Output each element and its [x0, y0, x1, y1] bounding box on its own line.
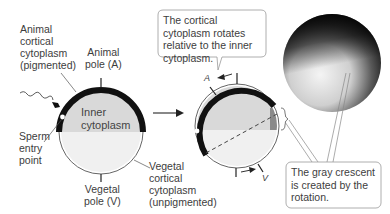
label-line: Animal — [85, 46, 122, 58]
label-line: Sperm — [19, 130, 50, 142]
label-line: pole (A) — [85, 58, 122, 70]
label-line: point — [19, 154, 50, 166]
transition-arrow — [153, 109, 184, 117]
label-vegetal-pole: Vegetal pole (V) — [84, 183, 121, 207]
sperm-head — [52, 102, 60, 108]
label-line: pole (V) — [84, 195, 121, 207]
label-line: (unpigmented) — [149, 196, 217, 208]
gray-crescent-photo — [283, 14, 381, 112]
label-line: Vegetal — [149, 160, 217, 172]
label-line: Vegetal — [84, 183, 121, 195]
label-line: cytoplasm — [20, 47, 76, 59]
callout-rotation-text: The cortical cytoplasm rotates relative … — [163, 14, 263, 64]
label-rotated-V: V — [262, 172, 268, 184]
label-inner-cytoplasm: Inner cytoplasm — [81, 106, 131, 131]
label-line: cortical — [149, 172, 217, 184]
gray-crescent — [270, 108, 285, 130]
callout-gray-crescent-text: The gray crescent is created by the rota… — [291, 166, 381, 204]
label-line: Inner — [81, 106, 131, 119]
label-animal-pole: Animal pole (A) — [85, 46, 122, 70]
label-line: Animal — [20, 23, 76, 35]
label-line: cortical — [20, 35, 76, 47]
label-rotated-A: A — [204, 72, 210, 84]
label-line: (pigmented) — [20, 59, 76, 71]
label-line: cytoplasm — [81, 119, 131, 132]
label-line: cytoplasm — [149, 184, 217, 196]
label-animal-cortical-cytoplasm: Animal cortical cytoplasm (pigmented) — [20, 23, 76, 71]
sperm-tail — [20, 92, 53, 100]
sperm-entry-dot — [60, 115, 65, 120]
label-vegetal-cortical-cytoplasm: Vegetal cortical cytoplasm (unpigmented) — [149, 160, 217, 208]
label-line: entry — [19, 142, 50, 154]
label-sperm-entry-point: Sperm entry point — [19, 130, 50, 166]
